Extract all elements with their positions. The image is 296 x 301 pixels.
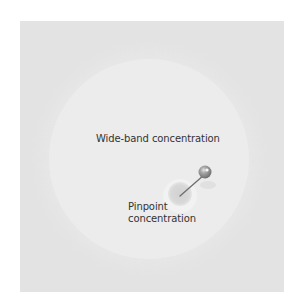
wide-band-label: Wide-band concentration [96,133,220,145]
pinpoint-label-line2: concentration [128,213,196,225]
pinpoint-label: Pinpoint concentration [128,201,196,225]
wide-band-concentration-area [49,59,249,259]
pinpoint-label-line1: Pinpoint [128,201,196,213]
